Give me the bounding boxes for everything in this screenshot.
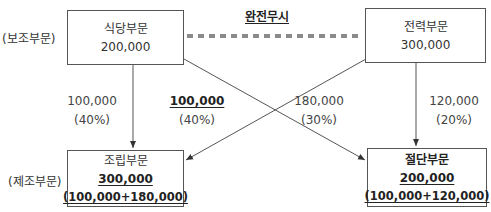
flow-amount: 120,000 [422, 92, 486, 111]
cutting-name: 절단부문 [405, 151, 449, 169]
cutting-breakdown: (100,000+120,000) [365, 187, 490, 205]
flow-percent: (40%) [165, 111, 229, 130]
assembly-name: 조립부문 [104, 152, 148, 170]
power-department-box: 전력부문 300,000 [365, 8, 486, 63]
flow-percent: (40%) [60, 111, 124, 130]
assembly-department-box: 조립부문 300,000 (100,000+180,000) [67, 150, 184, 207]
ignore-label: 완전무시 [245, 8, 289, 26]
flow-percent: (30%) [287, 111, 351, 130]
flow-power-cutting-label: 120,000 (20%) [422, 92, 486, 130]
flow-amount: 100,000 [165, 92, 229, 111]
flow-cafeteria-cutting-label: 100,000 (40%) [165, 92, 229, 130]
assembly-breakdown: (100,000+180,000) [63, 188, 188, 206]
cutting-amount: 200,000 [400, 169, 455, 187]
power-name: 전력부문 [404, 18, 448, 36]
production-departments-label: (제조부문) [8, 172, 61, 189]
cutting-department-box: 절단부문 200,000 (100,000+120,000) [367, 148, 487, 207]
assembly-amount: 300,000 [98, 170, 153, 188]
support-departments-label: (보조부문) [2, 29, 55, 46]
flow-amount: 100,000 [60, 92, 124, 111]
cafeteria-department-box: 식당부문 200,000 [67, 10, 184, 65]
flow-power-assembly-label: 180,000 (30%) [287, 92, 351, 130]
flow-amount: 180,000 [287, 92, 351, 111]
power-amount: 300,000 [401, 36, 451, 54]
flow-percent: (20%) [422, 111, 486, 130]
cafeteria-name: 식당부문 [104, 20, 148, 38]
flow-cafeteria-assembly-label: 100,000 (40%) [60, 92, 124, 130]
cafeteria-amount: 200,000 [101, 38, 151, 56]
